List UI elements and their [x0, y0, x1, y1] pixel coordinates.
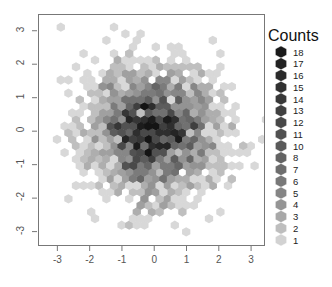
- legend-label: 15: [293, 82, 304, 93]
- y-tick-label: 0: [15, 122, 26, 138]
- legend-label: 8: [293, 152, 298, 163]
- y-tick-label: -1: [15, 155, 26, 171]
- legend-label: 2: [293, 223, 298, 234]
- legend-label: 6: [293, 176, 298, 187]
- legend-title: Counts: [268, 27, 319, 45]
- legend-label: 3: [293, 211, 298, 222]
- x-tick-label: 1: [184, 254, 190, 265]
- y-tick-label: -3: [15, 222, 26, 238]
- x-tick-label: 2: [216, 254, 222, 265]
- x-tick-label: -3: [53, 254, 62, 265]
- legend-label: 18: [293, 47, 304, 58]
- legend-swatches: [275, 46, 286, 246]
- legend-label: 7: [293, 164, 298, 175]
- legend-label: 13: [293, 105, 304, 116]
- legend-label: 17: [293, 58, 304, 69]
- y-tick-label: 1: [15, 88, 26, 104]
- legend-label: 14: [293, 94, 304, 105]
- legend-label: 5: [293, 188, 298, 199]
- x-tick-label: 0: [151, 254, 157, 265]
- legend-label: 12: [293, 117, 304, 128]
- legend-label: 10: [293, 141, 304, 152]
- legend-label: 16: [293, 70, 304, 81]
- legend-label: 11: [293, 129, 303, 140]
- legend-label: 4: [293, 199, 298, 210]
- x-tick-label: 3: [248, 254, 254, 265]
- x-tick-label: -2: [85, 254, 94, 265]
- y-tick-label: 3: [15, 21, 26, 37]
- x-tick-label: -1: [117, 254, 126, 265]
- y-tick-label: -2: [15, 189, 26, 205]
- y-tick-label: 2: [15, 55, 26, 71]
- legend-label: 1: [293, 235, 298, 246]
